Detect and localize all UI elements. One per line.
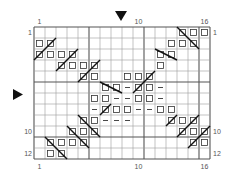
open-square-symbol [92, 96, 98, 102]
open-square-symbol [114, 107, 120, 113]
open-square-symbol [136, 74, 142, 80]
open-square-symbol [92, 118, 98, 124]
open-square-symbol [81, 63, 87, 69]
open-square-symbol [125, 107, 131, 113]
open-square-symbol [180, 118, 186, 124]
open-square-symbol [92, 74, 98, 80]
chart-grid [0, 0, 230, 179]
open-square-symbol [169, 107, 175, 113]
open-square-symbol [191, 30, 197, 36]
row-number-right: 10 [213, 128, 221, 135]
row-number-left: 1 [28, 29, 32, 36]
right-decrease-line [100, 104, 111, 115]
down-triangle-icon [115, 11, 127, 21]
column-number-top: 10 [133, 18, 145, 25]
row-number-right: 12 [213, 150, 221, 157]
column-number-bottom: 16 [199, 163, 211, 170]
right-triangle-icon [13, 89, 23, 100]
column-number-top: 16 [199, 18, 211, 25]
open-square-symbol [103, 96, 109, 102]
open-square-symbol [59, 52, 65, 58]
open-square-symbol [70, 63, 76, 69]
open-square-symbol [202, 30, 208, 36]
open-square-symbol [81, 129, 87, 135]
open-square-symbol [125, 74, 131, 80]
open-square-symbol [191, 129, 197, 135]
open-square-symbol [169, 41, 175, 47]
open-square-symbol [37, 41, 43, 47]
open-square-symbol [202, 140, 208, 146]
row-number-left: 10 [24, 128, 32, 135]
open-square-symbol [59, 140, 65, 146]
right-decrease-line [166, 115, 177, 126]
column-number-bottom: 1 [34, 163, 46, 170]
open-square-symbol [180, 41, 186, 47]
open-square-symbol [158, 63, 164, 69]
open-square-symbol [48, 52, 54, 58]
column-number-top: 1 [34, 18, 46, 25]
open-square-symbol [70, 140, 76, 146]
row-number-left: 12 [24, 150, 32, 157]
open-square-symbol [48, 151, 54, 157]
column-number-bottom: 10 [133, 163, 145, 170]
open-square-symbol [158, 107, 164, 113]
open-square-symbol [147, 96, 153, 102]
open-square-symbol [136, 96, 142, 102]
open-square-symbol [147, 85, 153, 91]
row-number-right: 1 [213, 29, 217, 36]
knitting-chart: 11016110161101211012 [0, 0, 230, 179]
